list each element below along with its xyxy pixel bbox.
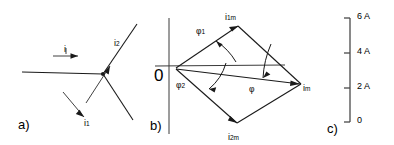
phasor-i2m-head bbox=[228, 116, 237, 123]
conductor-branch-1 bbox=[103, 74, 133, 120]
label-current-i1-subscript: 1 bbox=[86, 120, 90, 127]
arc-phi2 bbox=[209, 63, 226, 89]
label-angle-phi1: φ1 bbox=[196, 20, 205, 38]
conductor-incoming bbox=[22, 72, 103, 74]
arc-phi-head bbox=[263, 72, 270, 78]
label-phasor-i2m: i2m bbox=[228, 126, 239, 144]
parallelogram-side-lower bbox=[237, 84, 301, 123]
axis-horizontal-reference bbox=[155, 65, 285, 66]
conductor-branch-2 bbox=[103, 24, 137, 74]
panel-a-graphics bbox=[22, 24, 137, 120]
phasor-i1m-shaft bbox=[176, 26, 238, 68]
phasor-im-shaft bbox=[176, 69, 300, 84]
label-angle-phi2: φ2 bbox=[176, 74, 185, 92]
scale-tick-label-2: 2 A bbox=[357, 81, 370, 91]
label-angle-phi1-subscript: 1 bbox=[202, 28, 206, 35]
label-current-i: i bbox=[64, 38, 66, 56]
label-current-i1: i1 bbox=[84, 112, 90, 130]
scale-tick-label-4: 4 A bbox=[357, 46, 370, 56]
label-angle-phi: φ bbox=[249, 78, 255, 96]
arrow-i1-head bbox=[76, 110, 84, 117]
phasor-i2m-shaft bbox=[176, 69, 237, 123]
figure-container: i i2 i1 a) 0 i1m i2m im φ1 φ2 φ b) 6 A 4… bbox=[0, 0, 394, 145]
scale-tick-label-6: 6 A bbox=[357, 11, 370, 21]
label-angle-phi2-subscript: 2 bbox=[182, 82, 186, 89]
label-phasor-i1m: i1m bbox=[225, 6, 236, 24]
label-current-i2: i2 bbox=[114, 32, 120, 50]
label-phasor-i2m-subscript: 2m bbox=[230, 134, 239, 141]
label-current-i2-subscript: 2 bbox=[116, 40, 120, 47]
arc-phi1-head bbox=[216, 41, 223, 48]
scale-tick-label-0: 0 bbox=[357, 115, 362, 125]
label-phasor-im-subscript: m bbox=[305, 85, 310, 92]
panel-label-c: c) bbox=[327, 121, 338, 136]
label-angle-phi-symbol: φ bbox=[249, 84, 255, 94]
label-phasor-i1m-subscript: 1m bbox=[227, 14, 236, 21]
panel-c-graphics bbox=[344, 18, 350, 122]
label-phasor-im: im bbox=[303, 77, 310, 95]
panel-label-a: a) bbox=[18, 117, 30, 132]
label-current-i-symbol: i bbox=[64, 44, 66, 54]
arrow-i-head bbox=[71, 53, 79, 59]
panel-label-b: b) bbox=[150, 118, 162, 133]
parallelogram-side-upper bbox=[238, 26, 301, 84]
origin-label: 0 bbox=[154, 66, 163, 86]
